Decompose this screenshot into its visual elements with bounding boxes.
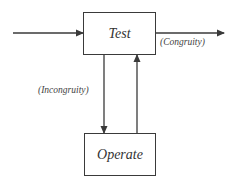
congruity-label: (Congruity): [160, 37, 205, 47]
operate-box: Operate: [84, 133, 156, 176]
test-label: Test: [108, 26, 130, 42]
incongruity-label: (Incongruity): [38, 85, 89, 95]
test-box: Test: [83, 12, 156, 55]
tote-diagram: Test Operate (Congruity) (Incongruity): [0, 0, 236, 186]
operate-label: Operate: [97, 147, 143, 163]
